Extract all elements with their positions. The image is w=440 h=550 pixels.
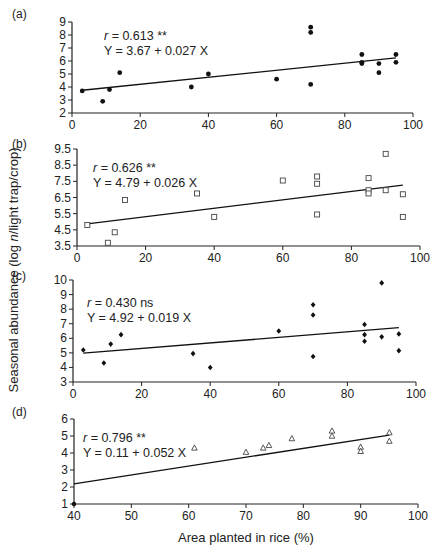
x-tick-label: 60 — [276, 251, 290, 265]
data-point — [274, 77, 279, 82]
y-axis-title-prefix: Seasonal abundance (log — [6, 241, 21, 392]
data-point — [191, 351, 196, 357]
data-point — [396, 331, 401, 337]
data-point — [112, 230, 117, 235]
data-point — [315, 181, 320, 186]
data-point — [400, 192, 405, 197]
x-tick-label: 40 — [202, 118, 216, 132]
y-tick-label: 5.5 — [54, 207, 71, 221]
y-tick-label: 7 — [60, 317, 67, 331]
data-point — [394, 60, 399, 65]
data-point — [280, 178, 285, 183]
data-point — [85, 222, 90, 227]
data-point — [117, 70, 122, 75]
data-point — [362, 332, 367, 338]
y-tick-label: 3 — [61, 463, 68, 477]
data-point — [315, 174, 320, 179]
y-tick-label: 10 — [54, 273, 68, 287]
data-point — [208, 365, 213, 371]
data-point — [379, 280, 384, 286]
data-point — [311, 312, 316, 318]
x-tick-label: 0 — [69, 118, 76, 132]
x-tick-label: 80 — [341, 387, 355, 401]
x-tick-label: 60 — [272, 387, 286, 401]
data-point — [383, 188, 388, 193]
x-tick-label: 100 — [408, 509, 428, 523]
correlation-label: r = 0.613 ** — [104, 29, 167, 43]
x-tick-label: 0 — [70, 387, 77, 401]
data-point — [81, 347, 86, 353]
x-tick-label: 60 — [270, 118, 284, 132]
data-point — [377, 61, 382, 66]
y-tick-label: 9 — [59, 15, 66, 29]
y-tick-label: 8.5 — [54, 158, 71, 172]
data-point — [108, 341, 113, 347]
panel-b: (b)3.54.55.56.57.58.59.5020406080100r = … — [12, 137, 430, 265]
y-tick-label: 5 — [59, 67, 66, 81]
x-tick-label: 0 — [74, 251, 81, 265]
regression-equation: Y = 0.11 + 0.052 X — [83, 446, 187, 460]
panel-a: (a)23456789020406080100r = 0.613 **Y = 3… — [12, 7, 423, 132]
data-point — [366, 176, 371, 181]
regression-line — [82, 58, 396, 90]
data-point — [243, 449, 249, 454]
y-tick-label: 8 — [59, 28, 66, 42]
x-tick-label: 90 — [354, 509, 368, 523]
regression-equation: Y = 4.79 + 0.026 X — [93, 176, 198, 190]
y-tick-label: 3 — [59, 93, 66, 107]
data-point — [100, 99, 105, 104]
x-tick-label: 50 — [125, 509, 139, 523]
data-point — [107, 87, 112, 92]
x-tick-label: 20 — [135, 387, 149, 401]
data-point — [311, 302, 316, 308]
data-point — [206, 72, 211, 77]
data-point — [315, 212, 320, 217]
x-tick-label: 40 — [67, 509, 81, 523]
panel-c: (c)345678910020406080100r = 0.430 nsY = … — [12, 269, 426, 401]
y-axis-title-suffix: /light trap/crop) — [6, 148, 21, 235]
x-tick-label: 80 — [338, 118, 352, 132]
correlation-label: r = 0.430 ns — [87, 296, 153, 310]
x-tick-label: 20 — [139, 251, 153, 265]
x-tick-label: 100 — [410, 251, 430, 265]
y-tick-label: 4 — [61, 446, 68, 460]
panel-label: (a) — [12, 7, 27, 21]
data-point — [276, 328, 281, 334]
y-tick-label: 3 — [60, 375, 67, 389]
y-tick-label: 7 — [59, 41, 66, 55]
data-point — [308, 82, 313, 87]
data-point — [400, 214, 405, 219]
y-tick-label: 6 — [61, 412, 68, 426]
data-point — [195, 191, 200, 196]
x-tick-label: 60 — [182, 509, 196, 523]
data-point — [119, 332, 124, 338]
origin-dot — [72, 502, 76, 506]
y-tick-label: 5 — [60, 346, 67, 360]
data-point — [192, 445, 198, 450]
data-point — [366, 191, 371, 196]
correlation-label: r = 0.626 ** — [93, 161, 156, 175]
x-tick-label: 20 — [134, 118, 148, 132]
y-tick-label: 5 — [61, 429, 68, 443]
y-axis-title-italic: n — [6, 234, 21, 241]
regression-line — [83, 328, 399, 353]
x-tick-label: 80 — [297, 509, 311, 523]
correlation-label: r = 0.796 ** — [83, 431, 146, 445]
y-tick-label: 4 — [59, 80, 66, 94]
regression-equation: Y = 4.92 + 0.019 X — [87, 311, 192, 325]
data-point — [189, 85, 194, 90]
data-point — [101, 360, 106, 366]
y-tick-label: 2 — [59, 106, 66, 120]
data-point — [260, 445, 266, 450]
panel-label: (d) — [12, 405, 27, 419]
y-tick-label: 6.5 — [54, 191, 71, 205]
data-point — [359, 52, 364, 57]
y-tick-label: 4 — [60, 360, 67, 374]
data-point — [123, 197, 128, 202]
x-tick-label: 40 — [204, 387, 218, 401]
data-point — [383, 151, 388, 156]
data-point — [311, 354, 316, 360]
data-point — [362, 338, 367, 344]
y-tick-label: 8 — [60, 302, 67, 316]
data-point — [387, 430, 393, 435]
